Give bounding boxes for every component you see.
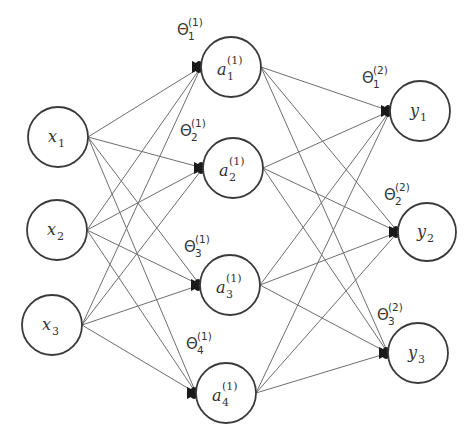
node-subscript: 2: [427, 232, 434, 245]
node-x2: x2: [27, 200, 87, 260]
edge-a4-y3: [256, 353, 388, 393]
node-subscript: 3: [52, 325, 59, 338]
node-superscript: (1): [229, 155, 245, 168]
edge-a1-y2: [261, 67, 398, 232]
edge-x2-a4: [87, 230, 196, 393]
edge-x1-a2: [88, 137, 203, 168]
node-label: y: [407, 343, 418, 362]
node-subscript: 2: [229, 171, 236, 184]
node-subscript: 3: [418, 353, 425, 366]
edge-a3-y3: [260, 285, 388, 353]
node-subscript: 1: [227, 70, 234, 83]
node-label: a: [212, 386, 222, 405]
node-a4: a4(1): [196, 363, 256, 423]
node-y2: y2: [398, 203, 456, 261]
edge-a4-y1: [256, 111, 390, 393]
theta-superscript: (2): [395, 181, 410, 193]
node-subscript: 2: [57, 230, 64, 243]
node-circle: [200, 255, 260, 315]
edge-x3-a1: [82, 67, 201, 325]
node-label: x: [48, 127, 57, 146]
theta-superscript: (2): [373, 64, 388, 76]
node-subscript: 3: [226, 288, 233, 301]
weight-label-theta2_2: Θ2(2): [384, 181, 410, 207]
theta-subscript: 3: [388, 315, 395, 327]
node-a2: a2(1): [203, 138, 263, 198]
node-y1: y1: [390, 81, 450, 141]
node-circle: [203, 138, 263, 198]
theta-superscript: (1): [195, 233, 210, 245]
node-x1: x1: [28, 107, 88, 167]
edge-a1-y3: [261, 67, 388, 353]
edge-x3-a4: [82, 325, 196, 393]
weight-label-theta3_2: Θ3(2): [377, 301, 403, 327]
node-subscript: 4: [222, 396, 229, 409]
theta-subscript: 1: [188, 30, 195, 42]
edge-x2-a1: [87, 67, 201, 230]
node-superscript: (1): [222, 380, 238, 393]
weight-label-theta1_2: Θ1(2): [362, 64, 388, 90]
edge-x3-a3: [82, 285, 200, 325]
node-y3: y3: [388, 323, 448, 383]
weight-label-theta4_1: Θ4(1): [186, 330, 212, 356]
theta-subscript: 4: [197, 344, 204, 356]
node-subscript: 1: [420, 111, 427, 124]
node-a1: a1(1): [201, 37, 261, 97]
theta-subscript: 2: [191, 131, 198, 143]
node-label: x: [47, 220, 56, 239]
node-superscript: (1): [226, 272, 242, 285]
weight-label-theta2_1: Θ2(1): [180, 117, 206, 143]
node-label: y: [409, 101, 420, 120]
theta-subscript: 1: [373, 78, 380, 90]
theta-superscript: (1): [188, 16, 203, 28]
node-label: y: [416, 222, 427, 241]
weight-label-theta1_1: Θ1(1): [177, 16, 203, 42]
theta-subscript: 3: [195, 247, 202, 259]
edge-a2-y3: [263, 168, 388, 353]
node-circle: [196, 363, 256, 423]
node-superscript: (1): [227, 54, 243, 67]
edge-x1-a4: [88, 137, 196, 393]
theta-superscript: (1): [197, 330, 212, 342]
node-label: a: [219, 161, 229, 180]
node-label: x: [42, 315, 51, 334]
theta-subscript: 2: [395, 195, 402, 207]
node-label: a: [217, 60, 227, 79]
theta-superscript: (1): [191, 117, 206, 129]
node-circle: [201, 37, 261, 97]
connection-edges: [82, 67, 398, 393]
node-label: a: [216, 278, 226, 297]
edge-x2-a2: [87, 168, 203, 230]
node-x3: x3: [22, 295, 82, 355]
weight-label-theta3_1: Θ3(1): [184, 233, 210, 259]
node-a3: a3(1): [200, 255, 260, 315]
edge-a2-y1: [263, 111, 390, 168]
node-subscript: 1: [58, 137, 65, 150]
neural-network-diagram: x1x2x3a1(1)a2(1)a3(1)a4(1)y1y2y3 Θ1(1)Θ2…: [0, 0, 475, 438]
theta-superscript: (2): [388, 301, 403, 313]
edge-x1-a3: [88, 137, 200, 285]
connection-arrowheads: [187, 61, 400, 399]
